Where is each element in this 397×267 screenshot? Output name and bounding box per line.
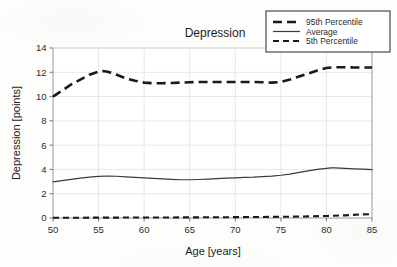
x-tick-label: 50 [48,224,59,235]
y-tick-label: 2 [41,188,46,199]
y-axis-title: Depression [points] [10,86,22,180]
x-tick-label: 60 [139,224,150,235]
x-axis-tickmarks [53,218,372,222]
legend-label-2: Average [306,27,338,37]
x-axis-title: Age [years] [185,245,241,257]
x-tick-label: 75 [276,224,287,235]
x-tick-label: 65 [184,224,195,235]
x-tick-label: 85 [367,224,378,235]
legend-label-1: 95th Percentile [306,17,363,27]
legend-label-3: 5th Percentile [306,36,358,46]
y-tick-label: 12 [36,67,47,78]
x-tick-label: 80 [321,224,332,235]
plot-area-background [53,48,372,218]
y-tick-label: 6 [41,140,46,151]
y-axis-tickmarks [50,48,54,218]
chart-title: Depression [185,26,246,40]
y-tick-label: 14 [36,42,47,53]
chart-legend[interactable]: 95th PercentileAverage5th Percentile [266,11,390,52]
y-tick-label: 4 [41,164,46,175]
depression-line-chart: 02468101214 5055606570758085 Depression … [0,0,397,267]
x-tick-label: 55 [93,224,104,235]
x-axis-tick-labels: 5055606570758085 [48,224,378,235]
x-tick-label: 70 [230,224,241,235]
y-tick-label: 8 [41,115,46,126]
chart-figure: 02468101214 5055606570758085 Depression … [0,0,397,267]
y-axis-tick-labels: 02468101214 [36,42,47,223]
y-tick-label: 10 [36,91,47,102]
y-tick-label: 0 [41,212,46,223]
